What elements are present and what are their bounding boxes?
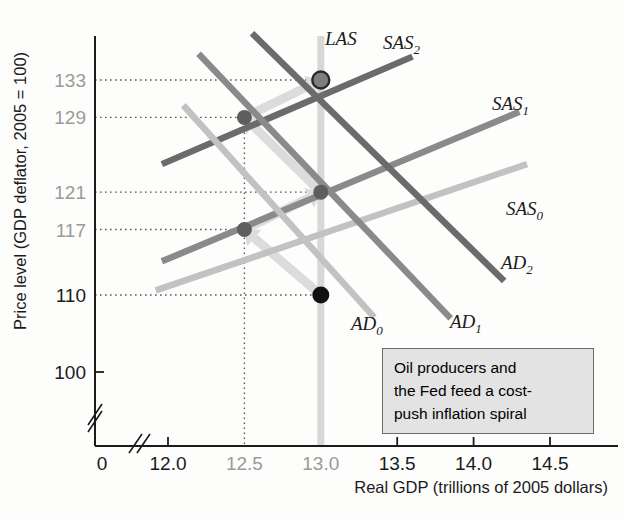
chart-figure: 012.012.513.013.514.014.5133129121117110… xyxy=(0,0,624,520)
equilibrium-point-4 xyxy=(312,72,329,89)
equilibrium-point-2 xyxy=(313,185,328,200)
arrow-shaft-2 xyxy=(254,126,321,192)
annotation-callout-box: Oil producers and the Fed feed a cost- p… xyxy=(382,348,594,434)
x-axis-break-mark-1 xyxy=(129,434,142,453)
x-tick-label-13.0: 13.0 xyxy=(302,453,339,474)
y-tick-label-110: 110 xyxy=(56,285,86,306)
curve-label-ad0: AD0 xyxy=(349,313,383,338)
annotation-line-1: Oil producers and xyxy=(394,356,583,379)
x-axis-break-mark-2 xyxy=(137,434,150,453)
x-tick-label-0: 0 xyxy=(97,453,108,474)
x-tick-label-14.0: 14.0 xyxy=(455,453,492,474)
x-tick-label-13.5: 13.5 xyxy=(379,453,416,474)
curve-label-ad2: AD2 xyxy=(499,252,533,277)
equilibrium-point-1 xyxy=(237,222,252,237)
y-axis-title: Price level (GDP deflator, 2005 = 100) xyxy=(11,52,29,330)
annotation-line-3: push inflation spiral xyxy=(394,402,583,425)
axis-titles: Real GDP (trillions of 2005 dollars) xyxy=(354,478,608,496)
y-tick-label-117: 117 xyxy=(56,220,86,241)
y-tick-label-100: 100 xyxy=(54,362,86,383)
x-tick-label-14.5: 14.5 xyxy=(532,453,569,474)
equilibrium-point-3 xyxy=(237,110,252,125)
curve-label-ad1: AD1 xyxy=(448,311,482,336)
x-axis-ticks: 012.012.513.013.514.014.5 xyxy=(97,437,569,474)
aggregate-supply-demand-chart: 012.012.513.013.514.014.5133129121117110… xyxy=(0,0,624,520)
y-tick-label-121: 121 xyxy=(54,182,86,203)
x-tick-label-12.5: 12.5 xyxy=(226,453,263,474)
y-tick-label-129: 129 xyxy=(54,107,86,128)
equilibrium-point-0 xyxy=(312,287,329,304)
y-tick-label-133: 133 xyxy=(54,70,86,91)
curve-label-sas0: SAS0 xyxy=(506,198,544,223)
x-axis-title: Real GDP (trillions of 2005 dollars) xyxy=(354,478,608,496)
annotation-line-2: the Fed feed a cost- xyxy=(394,379,583,402)
curves xyxy=(156,33,527,318)
x-tick-label-12.0: 12.0 xyxy=(150,453,187,474)
curve-label-sas2: SAS2 xyxy=(383,32,421,57)
curve-label-las: LAS xyxy=(324,28,357,49)
